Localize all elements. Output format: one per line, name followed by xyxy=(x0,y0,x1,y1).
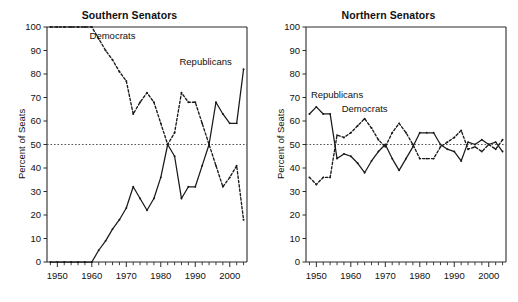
data-point-marker xyxy=(495,141,497,143)
data-point-marker xyxy=(132,113,134,115)
series-line-democrats xyxy=(309,119,502,185)
data-point-marker xyxy=(243,68,245,70)
x-tick-label: 1960 xyxy=(81,270,102,281)
data-point-marker xyxy=(167,144,169,146)
data-point-marker xyxy=(405,132,407,134)
y-tick-label: 90 xyxy=(30,45,41,56)
y-tick-label: 0 xyxy=(36,256,41,267)
chart-panel-southern: Southern Senators Percent of Seats 01020… xyxy=(0,0,259,302)
data-point-marker xyxy=(70,26,72,28)
data-point-marker xyxy=(181,92,183,94)
y-tick-label: 30 xyxy=(30,186,41,197)
data-point-marker xyxy=(329,113,331,115)
y-tick-label: 20 xyxy=(30,209,41,220)
data-point-marker xyxy=(467,148,469,150)
data-point-marker xyxy=(201,165,203,167)
data-point-marker xyxy=(56,261,58,263)
data-point-marker xyxy=(70,261,72,263)
data-point-marker xyxy=(502,151,504,153)
x-tick-label: 2000 xyxy=(219,270,240,281)
x-tick-label: 1960 xyxy=(340,270,361,281)
x-tick-label: 2000 xyxy=(478,270,499,281)
data-point-marker xyxy=(474,144,476,146)
y-tick-label: 40 xyxy=(30,162,41,173)
data-point-marker xyxy=(118,71,120,73)
data-point-marker xyxy=(446,148,448,150)
data-point-marker xyxy=(50,26,52,28)
data-point-marker xyxy=(160,176,162,178)
data-point-marker xyxy=(398,122,400,124)
data-point-marker xyxy=(481,151,483,153)
data-point-marker xyxy=(357,125,359,127)
data-point-marker xyxy=(222,186,224,188)
data-point-marker xyxy=(229,122,231,124)
y-tick-label: 0 xyxy=(295,256,300,267)
y-tick-label: 10 xyxy=(289,233,300,244)
data-point-marker xyxy=(139,101,141,103)
data-point-marker xyxy=(77,26,79,28)
data-point-marker xyxy=(153,198,155,200)
data-point-marker xyxy=(357,162,359,164)
data-point-marker xyxy=(384,146,386,148)
data-point-marker xyxy=(222,113,224,115)
data-point-marker xyxy=(502,139,504,141)
data-point-marker xyxy=(181,198,183,200)
data-point-marker xyxy=(229,176,231,178)
data-point-marker xyxy=(453,151,455,153)
y-tick-label: 10 xyxy=(30,233,41,244)
data-point-marker xyxy=(194,186,196,188)
data-point-marker xyxy=(329,176,331,178)
x-tick-label: 1970 xyxy=(375,270,396,281)
data-point-marker xyxy=(236,122,238,124)
data-point-marker xyxy=(433,158,435,160)
chart-panel-northern: Northern Senators Percent of Seats 01020… xyxy=(259,0,518,302)
y-tick-label: 90 xyxy=(289,45,300,56)
data-point-marker xyxy=(343,153,345,155)
y-tick-label: 80 xyxy=(30,68,41,79)
data-point-marker xyxy=(495,148,497,150)
data-point-marker xyxy=(350,132,352,134)
x-tick-label: 1950 xyxy=(47,270,68,281)
y-tick-label: 70 xyxy=(289,92,300,103)
y-tick-label: 30 xyxy=(289,186,300,197)
y-tick-label: 40 xyxy=(289,162,300,173)
data-point-marker xyxy=(426,158,428,160)
data-point-marker xyxy=(460,160,462,162)
data-point-marker xyxy=(336,158,338,160)
data-point-marker xyxy=(488,144,490,146)
data-point-marker xyxy=(391,132,393,134)
data-point-marker xyxy=(481,139,483,141)
y-tick-label: 50 xyxy=(289,139,300,150)
data-point-marker xyxy=(446,141,448,143)
data-point-marker xyxy=(433,132,435,134)
data-point-marker xyxy=(125,207,127,209)
data-point-marker xyxy=(377,151,379,153)
data-point-marker xyxy=(364,172,366,174)
data-point-marker xyxy=(194,101,196,103)
data-point-marker xyxy=(77,261,79,263)
series-annotation-democrats: Democrats xyxy=(90,30,136,41)
data-point-marker xyxy=(371,160,373,162)
data-point-marker xyxy=(467,141,469,143)
data-point-marker xyxy=(125,80,127,82)
data-point-marker xyxy=(236,165,238,167)
data-point-marker xyxy=(322,176,324,178)
y-tick-label: 70 xyxy=(30,92,41,103)
data-point-marker xyxy=(105,50,107,52)
y-tick-label: 20 xyxy=(289,209,300,220)
data-point-marker xyxy=(405,158,407,160)
data-point-marker xyxy=(84,261,86,263)
data-point-marker xyxy=(419,158,421,160)
data-point-marker xyxy=(187,186,189,188)
data-point-marker xyxy=(371,127,373,129)
chart-plot-southern: 0102030405060708090100195019601970198019… xyxy=(0,0,259,302)
data-point-marker xyxy=(105,240,107,242)
x-tick-label: 1980 xyxy=(409,270,430,281)
y-tick-label: 60 xyxy=(30,115,41,126)
data-point-marker xyxy=(98,249,100,251)
series-annotation-democrats: Democrats xyxy=(342,103,388,114)
data-point-marker xyxy=(315,184,317,186)
data-point-marker xyxy=(309,176,311,178)
y-tick-label: 100 xyxy=(284,21,300,32)
figure-container: Southern Senators Percent of Seats 01020… xyxy=(0,0,518,302)
